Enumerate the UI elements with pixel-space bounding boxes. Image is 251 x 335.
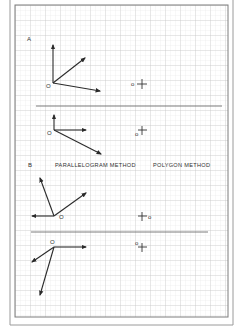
answer-origin-label: o (135, 240, 139, 246)
worksheet-canvas: A O o (0, 0, 251, 335)
origin-label: O (50, 239, 55, 245)
answer-origin-label: o (148, 214, 152, 220)
answer-origin-label: o (131, 81, 135, 87)
answer-origin-label: o (135, 131, 139, 137)
parallelogram-method-heading: PARALLELOGRAM METHOD (55, 162, 136, 168)
section-b-label: B (28, 162, 32, 168)
polygon-method-heading: POLYGON METHOD (153, 162, 210, 168)
origin-label: O (46, 83, 51, 89)
section-a-label: A (27, 36, 31, 42)
vector-worksheet: A O o (0, 0, 251, 335)
origin-label: O (47, 130, 52, 136)
origin-label: O (59, 214, 64, 220)
